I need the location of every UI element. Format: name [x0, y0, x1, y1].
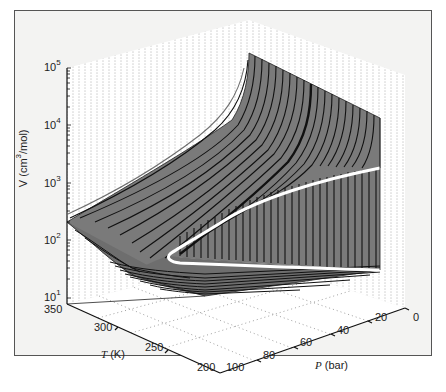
v-tick-exp: 2: [56, 231, 60, 240]
p-axis-symbol: P: [315, 359, 322, 371]
v-tick-base: 10: [44, 177, 56, 189]
v-axis-title: V (cm3/mol): [16, 130, 29, 188]
v-tick-1e2: 102: [44, 233, 61, 246]
v-axis-title-end: /mol): [17, 130, 29, 154]
p-tick-60: 60: [300, 337, 312, 348]
v-tick-exp: 5: [56, 58, 60, 67]
t-axis-title: T (K): [101, 349, 125, 360]
t-tick-250: 250: [145, 342, 163, 353]
v-axis-title-sup: 3: [14, 154, 23, 158]
pvt-surface-plot: [0, 0, 446, 392]
v-tick-base: 10: [44, 119, 56, 131]
v-tick-base: 10: [44, 234, 56, 246]
p-tick-20: 20: [375, 312, 387, 323]
t-axis-unit: (K): [107, 348, 125, 360]
t-tick-350: 350: [44, 304, 62, 315]
p-axis-title: P (bar): [315, 360, 348, 371]
v-tick-base: 10: [44, 291, 56, 303]
t-tick-300: 300: [94, 322, 112, 333]
v-tick-exp: 4: [56, 116, 60, 125]
v-tick-base: 10: [44, 61, 56, 73]
p-axis-unit: (bar): [322, 359, 348, 371]
t-tick-200: 200: [197, 362, 215, 373]
v-axis-title-text: V (cm: [17, 158, 29, 187]
p-tick-0: 0: [413, 312, 419, 323]
p-tick-100: 100: [226, 362, 244, 373]
v-tick-1e3: 103: [44, 176, 61, 189]
v-tick-exp: 3: [56, 174, 60, 183]
v-tick-1e5: 105: [44, 60, 61, 73]
p-tick-80: 80: [263, 350, 275, 361]
v-tick-1e4: 104: [44, 118, 61, 131]
v-tick-exp: 1: [56, 288, 60, 297]
v-tick-1e1: 101: [44, 290, 61, 303]
p-tick-40: 40: [337, 325, 349, 336]
